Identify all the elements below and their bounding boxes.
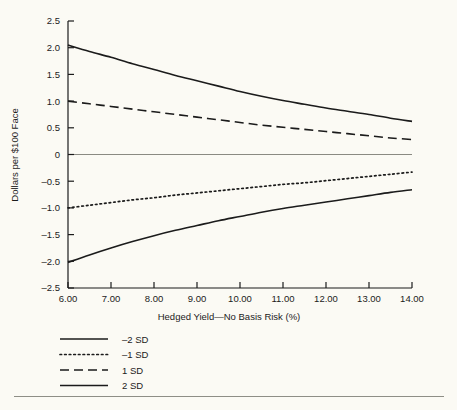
series-line-1SD [68,172,412,208]
y-axis-tick-label: –0.5 [42,176,61,187]
y-axis-tick-label: 0.5 [47,122,60,133]
chart-figure: 2.52.01.51.00.50–0.5–1.0–1.5–2.0–2.56.00… [0,0,457,410]
line-chart: 2.52.01.51.00.50–0.5–1.0–1.5–2.0–2.56.00… [0,0,457,410]
series-line-1SD [68,101,412,139]
y-axis-tick-label: –1.5 [42,229,61,240]
x-axis-tick-label: 13.00 [357,293,381,304]
x-axis-tick-label: 7.00 [102,293,121,304]
legend-label-1: –1 SD [122,349,149,360]
y-axis-tick-label: –1.0 [42,202,61,213]
x-axis-tick-label: 14.00 [400,293,424,304]
footer-divider [14,396,444,397]
y-axis-tick-label: 1.5 [47,69,60,80]
legend-label-0: –2 SD [122,334,149,345]
y-axis-tick-label: 1.0 [47,96,60,107]
series-line-2SD [68,45,412,121]
y-axis-tick-label: 0 [55,149,60,160]
y-axis-tick-label: 2.0 [47,42,60,53]
x-axis-tick-label: 8.00 [145,293,164,304]
legend-label-2: 1 SD [122,365,143,376]
x-axis-title: Hedged Yield—No Basis Risk (%) [158,311,301,322]
x-axis-tick-label: 9.00 [188,293,207,304]
y-axis-tick-label: –2.5 [42,282,61,293]
y-axis-title: Dollars per $100 Face [9,108,20,201]
y-axis-tick-label: 2.5 [47,15,60,26]
x-axis-tick-label: 10.00 [228,293,252,304]
legend-label-3: 2 SD [122,380,143,391]
x-axis-tick-label: 11.00 [271,293,294,304]
x-axis-tick-label: 12.00 [314,293,338,304]
x-axis-tick-label: 6.00 [59,293,78,304]
y-axis-tick-label: –2.0 [42,256,61,267]
